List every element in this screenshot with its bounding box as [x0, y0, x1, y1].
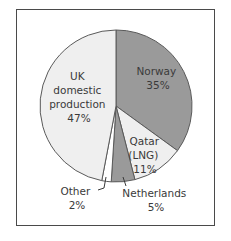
pie-chart: Norway 35% Qatar (LNG) 11% UK domestic p…: [0, 0, 231, 241]
other-label: Other 2%: [60, 185, 93, 211]
netherlands-label: Netherlands 5%: [122, 187, 189, 213]
